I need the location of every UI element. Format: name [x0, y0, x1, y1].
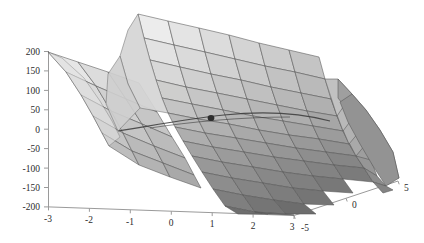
x-tick-0: 0 [169, 218, 174, 228]
x-tick-m2: -2 [85, 215, 93, 225]
z-tick-50: 50 [31, 105, 41, 115]
surface-mesh [48, 14, 399, 215]
z-tick-200: 200 [26, 47, 41, 57]
plot-canvas: 200 150 100 50 0 -50 -100 -150 -200 -3 -… [0, 0, 424, 243]
z-tick-m50: -50 [27, 144, 40, 154]
z-tick-100: 100 [26, 86, 41, 96]
z-tick-m200: -200 [23, 202, 41, 212]
y-tick-m5: -5 [301, 223, 309, 233]
surface-plot-figure: 200 150 100 50 0 -50 -100 -150 -200 -3 -… [0, 0, 424, 243]
z-axis-tick-labels: 200 150 100 50 0 -50 -100 -150 -200 [23, 47, 41, 212]
z-tick-0: 0 [35, 125, 40, 135]
x-tick-m1: -1 [126, 217, 134, 227]
x-tick-3: 3 [290, 222, 295, 232]
x-tick-1: 1 [210, 219, 215, 229]
z-axis-ticks [44, 52, 49, 207]
critical-point-marker [208, 115, 215, 121]
z-tick-m100: -100 [23, 164, 41, 174]
y-tick-0: 0 [352, 200, 357, 210]
x-axis-tick-labels: -3 -2 -1 0 1 2 3 [44, 214, 295, 233]
y-tick-5: 5 [404, 183, 409, 193]
x-tick-m3: -3 [44, 214, 52, 224]
z-tick-m150: -150 [23, 183, 41, 193]
x-tick-2: 2 [251, 221, 256, 231]
z-tick-150: 150 [26, 66, 41, 76]
